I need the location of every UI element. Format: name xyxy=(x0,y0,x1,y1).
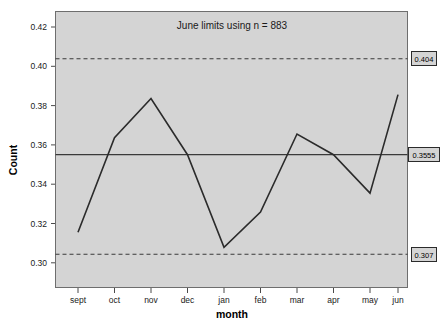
x-tick-label: feb xyxy=(255,295,267,305)
x-axis-tick-labels: sept oct nov dec jan feb mar apr may jun xyxy=(70,295,404,305)
x-tick-label: mar xyxy=(290,295,305,305)
y-tick-label: 0.34 xyxy=(30,179,47,189)
x-tick-label: oct xyxy=(109,295,121,305)
control-chart-figure: 0.42 0.40 0.38 0.36 0.34 0.32 0.30 Count… xyxy=(0,0,441,323)
x-tick-label: sept xyxy=(70,295,87,305)
center-line-value: 0.3555 xyxy=(413,151,436,160)
chart-title: June limits using n = 883 xyxy=(177,20,288,31)
y-axis-title: Count xyxy=(7,144,19,175)
lower-control-limit-value: 0.307 xyxy=(415,251,434,260)
center-line-label: 0.3555 xyxy=(409,148,440,162)
upper-control-limit-value: 0.404 xyxy=(415,55,434,64)
x-axis-ticks xyxy=(78,288,398,293)
x-tick-label: jun xyxy=(391,295,404,305)
y-tick-label: 0.42 xyxy=(30,22,47,32)
x-tick-label: may xyxy=(362,295,379,305)
y-axis-tick-labels: 0.42 0.40 0.38 0.36 0.34 0.32 0.30 xyxy=(30,22,47,268)
lower-control-limit-label: 0.307 xyxy=(412,248,437,262)
chart-canvas: 0.42 0.40 0.38 0.36 0.34 0.32 0.30 Count… xyxy=(0,0,441,323)
plot-area-background xyxy=(56,12,408,288)
y-tick-label: 0.30 xyxy=(30,258,47,268)
y-tick-label: 0.40 xyxy=(30,61,47,71)
y-tick-label: 0.38 xyxy=(30,101,47,111)
x-tick-label: dec xyxy=(181,295,195,305)
y-axis-ticks xyxy=(51,27,55,263)
x-axis-title: month xyxy=(216,308,248,320)
upper-control-limit-label: 0.404 xyxy=(412,52,437,66)
y-tick-label: 0.36 xyxy=(30,140,47,150)
y-tick-label: 0.32 xyxy=(30,219,47,229)
x-tick-label: nov xyxy=(144,295,158,305)
x-tick-label: jan xyxy=(217,295,230,305)
x-tick-label: apr xyxy=(327,295,339,305)
